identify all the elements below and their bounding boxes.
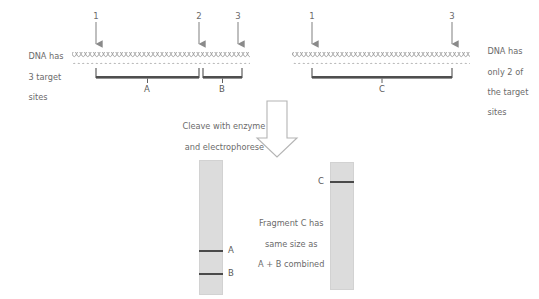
fragment-bracket-a	[96, 68, 199, 83]
site-label-2: 2	[193, 11, 205, 21]
right-target-site-arrows	[312, 22, 452, 44]
fragment-label-a: A	[141, 84, 153, 94]
left-caption-line-1: DNA has	[28, 51, 63, 61]
process-caption-line-2: and electrophorese	[185, 142, 264, 152]
result-caption-line-3: A + B combined	[258, 259, 324, 269]
left-caption-line-2: 3 target	[28, 72, 61, 82]
gel-band-label-c: C	[318, 176, 324, 186]
result-caption-line-2: same size as	[265, 239, 318, 249]
left-caption-line-3: sites	[28, 92, 47, 102]
gel-band-c	[330, 181, 354, 183]
fragment-label-c: C	[376, 84, 388, 94]
result-caption-line-1: Fragment C has	[259, 218, 324, 228]
diagram-canvas: DNA has 3 target sites 1 2 3 A B DNA has…	[0, 0, 539, 299]
fragment-bracket-b	[203, 68, 242, 83]
gel-band-a	[199, 250, 223, 252]
site-label-3: 3	[232, 11, 244, 21]
right-caption-line-4: sites	[487, 107, 506, 117]
fragment-bracket-c	[312, 68, 452, 83]
right-panel-caption: DNA has only 2 of the target sites	[477, 36, 537, 128]
right-caption-line-3: the target	[487, 87, 528, 97]
left-dna-strand	[72, 52, 250, 64]
fragment-label-b: B	[216, 84, 228, 94]
right-caption-line-2: only 2 of	[487, 67, 523, 77]
right-dna-strand	[292, 52, 470, 64]
right-caption-line-1: DNA has	[487, 46, 522, 56]
site-label-1-right: 1	[306, 11, 318, 21]
gel-band-label-a: A	[228, 245, 234, 255]
left-target-site-arrows	[96, 22, 238, 44]
process-caption-line-1: Cleave with enzyme	[182, 121, 265, 131]
left-panel-caption: DNA has 3 target sites	[18, 41, 74, 112]
result-caption: Fragment C has same size as A + B combin…	[233, 208, 339, 279]
gel-band-b	[199, 273, 223, 275]
site-label-1: 1	[90, 11, 102, 21]
gel-band-label-b: B	[228, 268, 234, 278]
process-caption: Cleave with enzyme and electrophorese	[172, 111, 264, 162]
site-label-3-right: 3	[446, 11, 458, 21]
